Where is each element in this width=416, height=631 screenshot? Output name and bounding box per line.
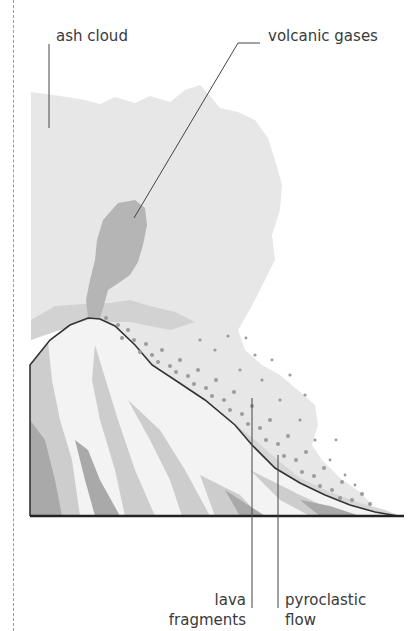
pyroclastic-flow-label: pyroclastic flow (285, 590, 366, 630)
pyroclastic-flow-label-line2: flow (285, 610, 366, 630)
pyroclastic-flow-label-line1: pyroclastic (285, 590, 366, 610)
ash-cloud-label: ash cloud (56, 26, 128, 46)
volcanic-gases-label: volcanic gases (268, 26, 378, 46)
lava-fragments-label: lava fragments (169, 590, 246, 630)
lava-fragments-label-line2: fragments (169, 610, 246, 630)
lava-fragments-label-line1: lava (169, 590, 246, 610)
volcano-illustration (0, 0, 416, 631)
